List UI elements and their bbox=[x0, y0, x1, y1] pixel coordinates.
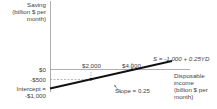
x-axis-title-1: Disposable bbox=[174, 72, 205, 79]
intercept-label-1: Intercept = bbox=[17, 85, 46, 92]
point-2000 bbox=[90, 78, 93, 81]
y-axis-title-3: month) bbox=[27, 15, 46, 22]
point-label-4000: $4,000 bbox=[122, 62, 141, 69]
x-axis-title-2: income bbox=[174, 79, 194, 86]
point-label-2000: $2,000 bbox=[82, 62, 101, 69]
x-axis-title-3: (billion $ per bbox=[174, 86, 208, 93]
y-axis-title-2: (billion $ per bbox=[12, 8, 46, 15]
y-axis-title-1: Saving bbox=[27, 1, 46, 8]
slope-label: Slope = 0.25 bbox=[115, 87, 150, 94]
equation-label: S = -1,000 + 0.25YD bbox=[153, 55, 209, 62]
tick-neg500: -$500 bbox=[30, 76, 46, 83]
saving-line bbox=[50, 61, 172, 89]
x-axis-title-4: month) bbox=[174, 93, 193, 100]
intercept-label-2: -$1,000 bbox=[25, 92, 46, 99]
tick-zero: $0 bbox=[39, 66, 46, 73]
